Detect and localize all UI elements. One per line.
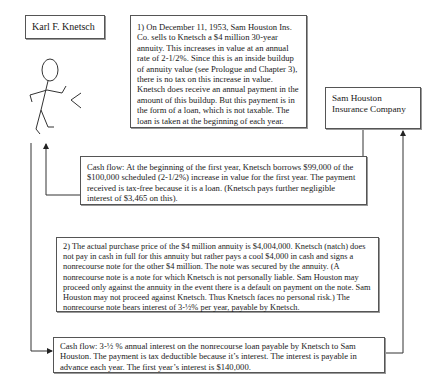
company-box: Sam Houston Insurance Company [325,87,421,129]
cash-flow-1-box: Cash flow: At the beginning of the first… [80,156,367,205]
company-name: Sam Houston Insurance Company [332,93,406,114]
step1-text: 1) On December 11, 1953, Sam Houston Ins… [137,22,299,126]
cash-flow-2-text: Cash flow: 3-½ % annual interest on the … [60,341,357,372]
step2-text: 2) The actual purchase price of the $4 m… [63,242,370,312]
actor-name-box: Karl F. Knetsch [25,15,105,39]
cash-flow-2-box: Cash flow: 3-½ % annual interest on the … [53,337,385,373]
arrow-cashflow2-to-company [385,131,403,353]
arrow-knetsch-to-cashflow2 [31,143,52,351]
step2-box: 2) The actual purchase price of the $4 m… [56,237,379,312]
arrow-cashflow1-to-knetsch [46,144,80,195]
stick-figure-icon [30,59,81,134]
cash-flow-1-text: Cash flow: At the beginning of the first… [87,162,355,203]
actor-name: Karl F. Knetsch [32,21,95,32]
step1-box: 1) On December 11, 1953, Sam Houston Ins… [130,15,307,128]
